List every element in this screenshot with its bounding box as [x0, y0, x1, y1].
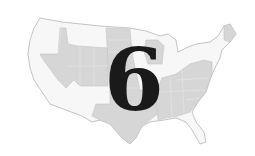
us-map: 6 — [0, 0, 255, 156]
overlay-number: 6 — [104, 42, 160, 118]
region-shaded-maine — [224, 24, 236, 42]
